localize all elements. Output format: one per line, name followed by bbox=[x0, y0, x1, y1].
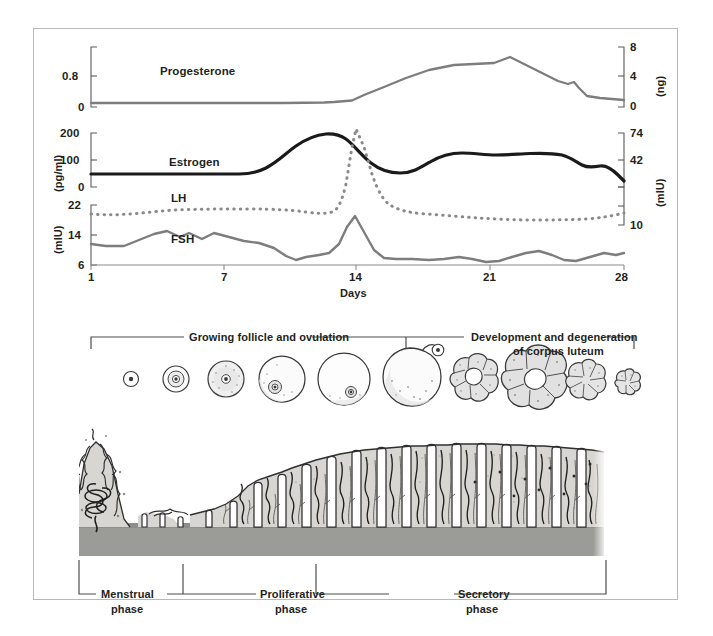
x-tick-1: 1 bbox=[88, 271, 95, 283]
x-tick-28: 28 bbox=[615, 271, 628, 283]
phase-label-menstrual-line2: phase bbox=[111, 602, 143, 616]
axis-left-estro-tick-0: 0 bbox=[78, 181, 85, 193]
corpus-luteum-stage-3-regressing bbox=[566, 359, 606, 399]
phase-label-menstrual-line1: Menstrual bbox=[101, 587, 154, 601]
x-tick-14: 14 bbox=[349, 271, 362, 283]
estrogen-label: Estrogen bbox=[169, 156, 220, 168]
phase-label-secretory-line2: phase bbox=[466, 602, 498, 616]
progesterone-label: Progesterone bbox=[160, 65, 235, 77]
phase-section: Menstrual phase Proliferative phase Secr… bbox=[34, 554, 679, 614]
x-tick-21: 21 bbox=[483, 271, 496, 283]
hormone-graph: Progesterone 0.8 0 200 100 0 (pg/ml) 22 … bbox=[34, 29, 679, 279]
phase-bracket bbox=[79, 560, 606, 594]
axis-right-prog-tick-8: 8 bbox=[630, 41, 637, 53]
axis-right-lh-tick-74: 74 bbox=[630, 127, 643, 139]
ovary-section-svg bbox=[34, 301, 679, 431]
phase-label-proliferative-line2: phase bbox=[275, 602, 307, 616]
axis-left-prog-tick-low: 0 bbox=[78, 101, 85, 113]
estrogen-axis-left bbox=[91, 133, 97, 187]
ovary-section: Growing follicle and ovulation Developme… bbox=[34, 301, 679, 431]
corpus-luteum-section-label-line2: of corpus luteum bbox=[513, 345, 604, 359]
progesterone-axis-left bbox=[91, 47, 97, 107]
menstrual-cycle-figure: Progesterone 0.8 0 200 100 0 (pg/ml) 22 … bbox=[33, 28, 678, 600]
progesterone-axis-right bbox=[618, 47, 624, 107]
axis-left-prog-tick-high: 0.8 bbox=[62, 70, 78, 82]
corpus-luteum-stage-1 bbox=[450, 354, 498, 402]
axis-left-estro-unit: (pg/ml) bbox=[52, 155, 64, 192]
follicle-stage-1 bbox=[124, 372, 139, 387]
endometrium-svg bbox=[34, 424, 679, 559]
axis-right-prog-unit: (ng) bbox=[654, 76, 666, 97]
axis-right-lh-tick-42: 42 bbox=[630, 154, 643, 166]
follicle-stage-6-ovulation bbox=[383, 344, 444, 406]
axis-left-lhfsh-unit: (mIU) bbox=[52, 225, 64, 254]
axis-left-lhfsh-tick-14: 14 bbox=[68, 229, 81, 241]
axis-left-lhfsh-tick-22: 22 bbox=[68, 199, 81, 211]
lh-label: LH bbox=[171, 192, 187, 204]
axis-right-prog-tick-4: 4 bbox=[630, 70, 637, 82]
follicle-section-label: Growing follicle and ovulation bbox=[189, 331, 349, 345]
axis-left-lhfsh-tick-6: 6 bbox=[78, 259, 85, 271]
phase-label-secretory-line1: Secretory bbox=[458, 587, 510, 601]
follicle-stage-4 bbox=[259, 356, 305, 402]
axis-right-prog-tick-0: 0 bbox=[630, 100, 637, 112]
corpus-albicans bbox=[615, 369, 641, 395]
hormone-graph-svg bbox=[34, 29, 679, 279]
axis-left-estro-tick-200: 200 bbox=[60, 127, 80, 139]
progesterone-curve bbox=[91, 57, 624, 103]
follicle-stage-2 bbox=[163, 366, 189, 392]
follicle-stage-5 bbox=[318, 353, 370, 405]
phase-label-proliferative-line1: Proliferative bbox=[260, 587, 325, 601]
axis-right-lh-tick-10: 10 bbox=[630, 219, 643, 231]
follicle-stage-3 bbox=[208, 361, 244, 397]
x-axis bbox=[91, 265, 624, 270]
x-tick-7: 7 bbox=[221, 271, 228, 283]
axis-right-lh-unit: (mIU) bbox=[654, 178, 666, 207]
lh-axis-right bbox=[618, 187, 624, 225]
fsh-label: FSH bbox=[171, 233, 194, 245]
endometrium-diagram bbox=[34, 424, 679, 559]
corpus-luteum-section-label-line1: Development and degeneration bbox=[471, 331, 638, 345]
endometrium-stump-tendrils bbox=[149, 509, 188, 516]
x-axis-label: Days bbox=[340, 287, 367, 299]
